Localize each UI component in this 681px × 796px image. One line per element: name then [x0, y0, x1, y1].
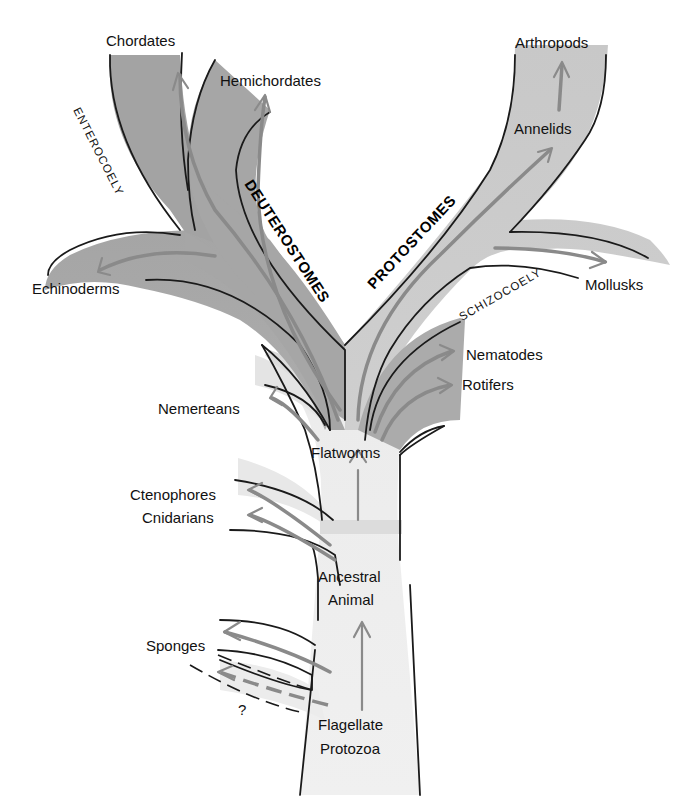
- taxon-ancestral-animal-line1: Ancestral: [318, 568, 381, 585]
- phylogenetic-tree-diagram: DEUTEROSTOMES PROTOSTOMES ENTEROCOELY SC…: [0, 0, 681, 796]
- taxon-echinoderms: Echinoderms: [32, 280, 120, 297]
- taxon-flagellate-protozoa-line2: Protozoa: [320, 740, 381, 757]
- taxon-cnidarians: Cnidarians: [142, 509, 214, 526]
- taxon-nematodes: Nematodes: [466, 346, 543, 363]
- taxon-arthropods: Arthropods: [515, 34, 588, 51]
- taxon-nemerteans: Nemerteans: [158, 400, 240, 417]
- taxon-annelids: Annelids: [514, 120, 572, 137]
- taxon-ancestral-animal-line2: Animal: [328, 591, 374, 608]
- taxon-chordates: Chordates: [106, 32, 175, 49]
- taxon-sponges: Sponges: [146, 637, 205, 654]
- taxon-hemichordates: Hemichordates: [220, 72, 321, 89]
- unknown-origin-marker: ?: [238, 701, 246, 718]
- taxon-rotifers: Rotifers: [462, 376, 514, 393]
- tree-canvas: DEUTEROSTOMES PROTOSTOMES ENTEROCOELY SC…: [0, 0, 681, 796]
- taxon-ctenophores: Ctenophores: [130, 486, 216, 503]
- taxon-flatworms: Flatworms: [311, 444, 380, 461]
- taxon-flagellate-protozoa-line1: Flagellate: [318, 716, 383, 733]
- taxon-mollusks: Mollusks: [585, 276, 643, 293]
- schizocoely-label: SCHIZOCOELY: [457, 266, 543, 323]
